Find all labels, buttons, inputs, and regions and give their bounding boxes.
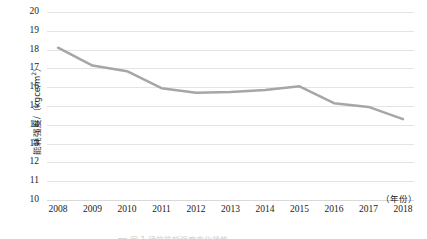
y-tick-label-15: 15 bbox=[5, 100, 39, 110]
y-tick-label-16: 16 bbox=[5, 81, 39, 91]
y-tick-label-10: 10 bbox=[5, 194, 39, 204]
y-tick-label-17: 17 bbox=[5, 62, 39, 72]
y-tick-label-18: 18 bbox=[5, 44, 39, 54]
series-polyline bbox=[58, 48, 403, 119]
caption-text: 图 1 建筑能耗强度变化趋势 bbox=[130, 236, 228, 239]
y-tick-label-19: 19 bbox=[5, 25, 39, 35]
x-axis-unit-label: （年份） bbox=[381, 192, 417, 204]
y-axis-title-superscript: 2 bbox=[30, 72, 37, 76]
y-tick-label-20: 20 bbox=[5, 6, 39, 16]
y-tick-label-12: 12 bbox=[5, 156, 39, 166]
figure-caption-cropped: 图 1 建筑能耗强度变化趋势 bbox=[118, 234, 323, 239]
y-tick-label-13: 13 bbox=[5, 138, 39, 148]
plot-area: 2019181716151413121110 20082009201020112… bbox=[47, 12, 414, 200]
series-line-energy-intensity bbox=[47, 12, 414, 200]
x-tick-label-2018: 2018 bbox=[383, 204, 423, 214]
chart-container: 能耗强度/（kgce/m2） 2019181716151413121110 20… bbox=[0, 0, 427, 239]
caption-legend-marker bbox=[118, 238, 127, 239]
gridline-10 bbox=[47, 200, 414, 201]
y-tick-label-11: 11 bbox=[5, 175, 39, 185]
y-tick-label-14: 14 bbox=[5, 119, 39, 129]
